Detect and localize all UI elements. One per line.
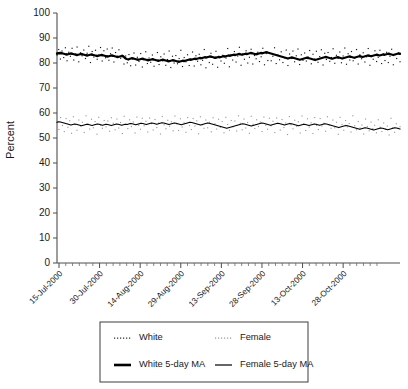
scatter-point xyxy=(84,132,85,133)
scatter-point xyxy=(88,46,89,47)
scatter-point xyxy=(327,116,328,117)
scatter-point xyxy=(198,133,199,134)
scatter-point xyxy=(150,62,151,63)
scatter-point xyxy=(93,127,94,128)
scatter-point xyxy=(383,122,384,123)
scatter-point xyxy=(256,119,257,120)
scatter-point xyxy=(153,129,154,130)
scatter-point xyxy=(386,52,387,53)
scatter-point xyxy=(264,64,265,65)
scatter-point xyxy=(224,63,225,64)
scatter-point xyxy=(301,54,302,55)
scatter-point xyxy=(344,47,345,48)
scatter-point xyxy=(85,115,86,116)
scatter-point xyxy=(252,124,253,125)
scatter-point xyxy=(356,129,357,130)
scatter-point xyxy=(127,128,128,129)
scatter-point xyxy=(193,118,194,119)
scatter-point xyxy=(227,48,228,49)
scatter-point xyxy=(379,50,380,51)
scatter-point xyxy=(159,64,160,65)
scatter-point xyxy=(361,58,362,59)
y-tick-label: 80 xyxy=(39,57,51,68)
scatter-point xyxy=(162,116,163,117)
scatter-point xyxy=(358,63,359,64)
scatter-point xyxy=(116,118,117,119)
scatter-point xyxy=(365,118,366,119)
scatter-point xyxy=(305,130,306,131)
scatter-point xyxy=(272,121,273,122)
scatter-point xyxy=(279,59,280,60)
scatter-point xyxy=(225,117,226,118)
scatter-point xyxy=(241,65,242,66)
legend-label: White xyxy=(139,332,163,342)
scatter-point xyxy=(138,125,139,126)
scatter-point xyxy=(210,53,211,54)
scatter-point xyxy=(237,55,238,56)
scatter-point xyxy=(147,63,148,64)
scatter-point xyxy=(66,118,67,119)
scatter-point xyxy=(238,115,239,116)
scatter-point xyxy=(104,120,105,121)
scatter-point xyxy=(374,125,375,126)
scatter-point xyxy=(390,118,391,119)
scatter-point xyxy=(256,58,257,59)
y-tick-label: 0 xyxy=(44,257,50,268)
scatter-point xyxy=(105,57,106,58)
scatter-point xyxy=(269,118,270,119)
scatter-point xyxy=(348,53,349,54)
scatter-point xyxy=(354,125,355,126)
scatter-point xyxy=(128,54,129,55)
scatter-point xyxy=(376,61,377,62)
scatter-point xyxy=(142,118,143,119)
female-scatter-points xyxy=(56,115,400,135)
scatter-point xyxy=(165,65,166,66)
scatter-point xyxy=(333,48,334,49)
scatter-point xyxy=(309,50,310,51)
scatter-point xyxy=(378,119,379,120)
scatter-point xyxy=(202,60,203,61)
scatter-point xyxy=(213,117,214,118)
scatter-point xyxy=(175,55,176,56)
scatter-point xyxy=(60,117,61,118)
scatter-point xyxy=(82,122,83,123)
scatter-point xyxy=(95,50,96,51)
scatter-point xyxy=(204,49,205,50)
scatter-point xyxy=(334,63,335,64)
scatter-point xyxy=(346,64,347,65)
scatter-point xyxy=(245,127,246,128)
scatter-point xyxy=(311,122,312,123)
scatter-point xyxy=(105,126,106,127)
scatter-point xyxy=(194,65,195,66)
scatter-point xyxy=(265,125,266,126)
scatter-point xyxy=(289,53,290,54)
scatter-point xyxy=(271,60,272,61)
scatter-point xyxy=(249,133,250,134)
scatter-point xyxy=(396,58,397,59)
x-tick-label: 30-Jul-2000 xyxy=(68,269,105,306)
scatter-point xyxy=(343,55,344,56)
scatter-point xyxy=(384,60,385,61)
scatter-point xyxy=(367,126,368,127)
scatter-point xyxy=(120,58,121,59)
scatter-point xyxy=(381,63,382,64)
scatter-point xyxy=(251,116,252,117)
scatter-point xyxy=(326,59,327,60)
scatter-point xyxy=(179,58,180,59)
scatter-point xyxy=(196,120,197,121)
scatter-point xyxy=(212,64,213,65)
scatter-point xyxy=(229,66,230,67)
scatter-point xyxy=(58,129,59,130)
scatter-point xyxy=(252,63,253,64)
scatter-point xyxy=(294,61,295,62)
scatter-point xyxy=(83,49,84,50)
scatter-point xyxy=(142,66,143,67)
scatter-point xyxy=(174,115,175,116)
scatter-point xyxy=(124,116,125,117)
scatter-point xyxy=(287,134,288,135)
scatter-point xyxy=(340,117,341,118)
scatter-point xyxy=(276,117,277,118)
scatter-point xyxy=(103,50,104,51)
scatter-point xyxy=(102,128,103,129)
scatter-point xyxy=(341,62,342,63)
